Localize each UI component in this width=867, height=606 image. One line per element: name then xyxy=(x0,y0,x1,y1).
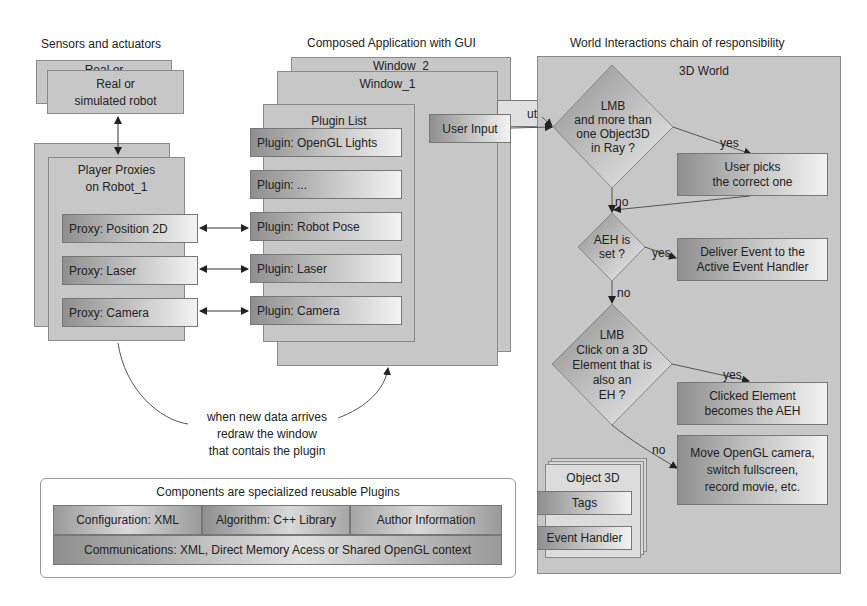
action-deliver-event[interactable]: Deliver Event to theActive Event Handler xyxy=(677,238,828,281)
legend-title: Components are specialized reusable Plug… xyxy=(41,485,515,499)
redraw-note-line2: redraw the window xyxy=(192,426,342,443)
decision-3-text: LMBClick on a 3DElement that isalso anEH… xyxy=(552,328,672,403)
decision-2-text: AEH isset ? xyxy=(578,233,646,261)
proxy-laser[interactable]: Proxy: Laser xyxy=(62,256,198,285)
object3d-event-handler[interactable]: Event Handler xyxy=(537,526,632,550)
plugin-laser[interactable]: Plugin: Laser xyxy=(250,254,402,283)
heading-composed-application: Composed Application with GUI xyxy=(307,36,476,50)
decision-1-text: LMBand more thanone Object3Din Ray ? xyxy=(553,99,673,155)
plugin-robot-pose[interactable]: Plugin: Robot Pose xyxy=(250,212,402,241)
redraw-note-line3: that contais the plugin xyxy=(192,443,342,460)
object3d-tags[interactable]: Tags xyxy=(537,491,632,515)
plugin-ellipsis[interactable]: Plugin: ... xyxy=(250,170,402,199)
heading-sensors: Sensors and actuators xyxy=(41,37,161,51)
robot-box-label-line2: simulated robot xyxy=(48,94,183,108)
action-user-picks[interactable]: User picksthe correct one xyxy=(677,153,828,196)
world-3d-title: 3D World xyxy=(538,64,840,78)
yes-label-2: yes xyxy=(652,246,671,260)
legend-configuration: Configuration: XML xyxy=(53,505,202,535)
robot-box-label-line1: Real or xyxy=(48,77,183,91)
legend-algorithm: Algorithm: C++ Library xyxy=(202,505,350,535)
robot-box[interactable]: Real or simulated robot xyxy=(47,70,184,114)
action-clicked-element[interactable]: Clicked Elementbecomes the AEH xyxy=(677,382,828,425)
redraw-note-line1: when new data arrives xyxy=(192,409,342,426)
heading-world-interactions: World Interactions chain of responsibili… xyxy=(570,36,785,50)
plugin-camera[interactable]: Plugin: Camera xyxy=(250,296,402,325)
window-1-title: Window_1 xyxy=(278,77,497,91)
legend-communications: Communications: XML, Direct Memory Acess… xyxy=(53,535,502,565)
action-move-camera[interactable]: Move OpenGL camera,switch fullscreen,rec… xyxy=(677,435,828,505)
plugin-list-title: Plugin List xyxy=(264,114,414,128)
no-label-1: no xyxy=(615,195,628,209)
object3d-title: Object 3D xyxy=(546,471,640,485)
yes-label-3: yes xyxy=(723,368,742,382)
user-input-window-1[interactable]: User Input xyxy=(429,114,511,143)
no-label-2: no xyxy=(617,286,630,300)
yes-label-1: yes xyxy=(720,136,739,150)
legend-author-info: Author Information xyxy=(350,505,502,535)
plugin-opengl-lights[interactable]: Plugin: OpenGL Lights xyxy=(250,128,402,157)
redraw-note: when new data arrives redraw the window … xyxy=(192,409,342,460)
player-proxies-title-line2: on Robot_1 xyxy=(49,180,184,194)
player-proxies-title-line1: Player Proxies xyxy=(49,163,184,177)
proxy-camera[interactable]: Proxy: Camera xyxy=(62,298,198,327)
no-label-3: no xyxy=(652,443,665,457)
proxy-position-2d[interactable]: Proxy: Position 2D xyxy=(62,214,198,243)
